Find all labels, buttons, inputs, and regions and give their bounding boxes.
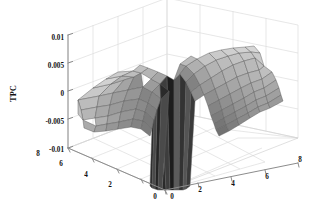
y-tick-label: 6 <box>55 161 67 168</box>
surface-plot-3d <box>0 0 317 218</box>
z-tick-label: -0.005 <box>18 119 64 126</box>
figure-canvas: TPC 0.01 0.005 0 -0.005 -0.01 8 6 4 2 0 … <box>0 0 317 218</box>
x-tick-label: 4 <box>227 181 239 188</box>
y-tick-label: 0 <box>149 194 161 201</box>
z-tick-label: 0 <box>18 91 64 98</box>
y-tick-label: 4 <box>80 172 92 179</box>
z-tick-label: 0.01 <box>18 35 64 42</box>
y-tick-label: 2 <box>104 182 116 189</box>
x-tick-label: 2 <box>194 187 206 194</box>
y-tick-label: 8 <box>32 151 44 158</box>
z-axis-label: TPC <box>9 80 18 108</box>
z-tick-label: 0.005 <box>18 63 64 70</box>
surface-mesh <box>78 46 283 190</box>
x-tick-label: 8 <box>294 157 306 164</box>
x-tick-label: 6 <box>261 174 273 181</box>
x-tick-label: 0 <box>166 194 178 201</box>
